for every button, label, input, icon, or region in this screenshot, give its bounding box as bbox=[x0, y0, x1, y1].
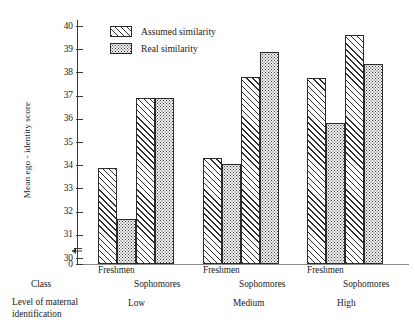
bar-medium-freshmen-assumed bbox=[203, 158, 222, 264]
category-label-freshmen: Freshmen bbox=[203, 265, 240, 275]
y-tick-label: 37 bbox=[64, 89, 73, 101]
bar-low-sophomores-real bbox=[155, 98, 174, 264]
bar-medium-sophomores-real bbox=[260, 52, 279, 264]
legend-label-assumed-similarity: Assumed similarity bbox=[141, 26, 216, 37]
y-tick-label: 34 bbox=[64, 159, 73, 171]
row-label-level-line1: Level of maternal bbox=[12, 297, 132, 309]
legend-item-assumed-similarity: Assumed similarity bbox=[110, 23, 216, 40]
row-label-level: Level of maternal identification bbox=[12, 297, 132, 320]
category-label-freshmen: Freshmen bbox=[307, 265, 344, 275]
bar-low-sophomores-assumed bbox=[136, 98, 155, 264]
category-label-freshmen: Freshmen bbox=[98, 265, 135, 275]
bar-low-freshmen-assumed bbox=[98, 168, 117, 264]
bar-high-sophomores-real bbox=[364, 64, 383, 264]
bar-high-freshmen-real bbox=[326, 123, 345, 264]
y-tick-label: 31 bbox=[64, 228, 73, 240]
level-label-medium: Medium bbox=[233, 298, 265, 308]
bar-high-sophomores-assumed bbox=[345, 35, 364, 264]
category-label-sophomores: Sophomores bbox=[134, 279, 181, 289]
bar-group-high bbox=[307, 20, 383, 264]
legend-swatch-dots-icon bbox=[110, 43, 132, 54]
row-label-class: Class bbox=[31, 279, 51, 289]
y-axis-title: Mean ego - identity score bbox=[22, 60, 32, 240]
level-label-high: High bbox=[337, 298, 356, 308]
y-tick-label: 36 bbox=[64, 112, 73, 124]
y-tick-label: 39 bbox=[64, 43, 73, 55]
bar-medium-freshmen-real bbox=[222, 164, 241, 264]
legend-label-real-similarity: Real similarity bbox=[141, 43, 198, 54]
bar-chart: Mean ego - identity score 30313233343536… bbox=[0, 0, 415, 325]
row-label-level-line2: identification bbox=[12, 309, 132, 321]
legend: Assumed similarity Real similarity bbox=[110, 23, 216, 57]
category-label-sophomores: Sophomores bbox=[239, 279, 286, 289]
y-tick-label: 40 bbox=[64, 20, 73, 32]
y-tick-label: 32 bbox=[64, 205, 73, 217]
y-tick-zero-label: 0 bbox=[68, 258, 73, 270]
legend-item-real-similarity: Real similarity bbox=[110, 40, 216, 57]
y-tick-label: 33 bbox=[64, 182, 73, 194]
bar-medium-sophomores-assumed bbox=[241, 77, 260, 264]
category-label-sophomores: Sophomores bbox=[343, 279, 390, 289]
y-tick-label: 35 bbox=[64, 136, 73, 148]
bar-high-freshmen-assumed bbox=[307, 78, 326, 264]
legend-swatch-hatch-icon bbox=[110, 26, 132, 37]
y-tick-label: 38 bbox=[64, 66, 73, 78]
bar-low-freshmen-real bbox=[117, 219, 136, 264]
